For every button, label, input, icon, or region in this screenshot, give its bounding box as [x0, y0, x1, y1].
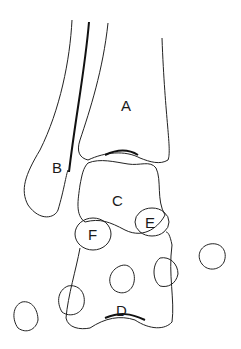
fibula-inner-line — [69, 22, 89, 172]
ossicle-far-right — [199, 244, 225, 269]
ossicle-right — [154, 258, 178, 287]
fibula-outline — [24, 20, 72, 217]
label-c: C — [112, 192, 123, 209]
ossicle-far-left — [14, 302, 38, 331]
ossicle-left — [59, 286, 85, 315]
label-a: A — [121, 97, 131, 114]
tibia-outline — [78, 23, 169, 163]
label-b: B — [52, 159, 62, 176]
bone-diagram: A B C E F D — [0, 0, 241, 349]
label-e: E — [145, 214, 155, 231]
ossicle-center — [110, 265, 135, 293]
label-f: F — [88, 226, 97, 243]
label-d: D — [116, 302, 127, 319]
